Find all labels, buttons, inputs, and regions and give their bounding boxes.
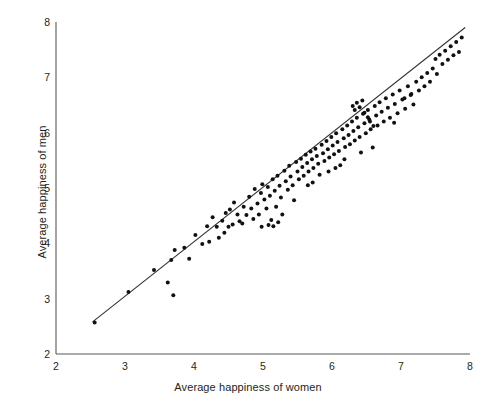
data-point [446,58,450,62]
y-axis-title: Average happiness of men [36,62,48,322]
data-point [193,233,197,237]
data-point [406,84,410,88]
data-point [369,127,373,131]
data-point [171,293,175,297]
data-point [260,182,264,186]
data-point [386,106,390,110]
data-point [282,169,286,173]
data-point [271,177,275,181]
data-point [257,213,261,217]
data-point [438,53,442,57]
x-tick-label: 2 [44,360,68,372]
data-point [443,49,447,53]
data-point [340,127,344,131]
data-point [348,142,352,146]
data-point [173,248,177,252]
data-point [187,257,191,261]
scatter-chart: 8 7 6 5 4 3 2 2 3 4 5 6 7 8 Average happ… [0,0,496,410]
data-point [266,185,270,189]
data-point [259,191,263,195]
data-point [329,135,333,139]
data-point [242,205,246,209]
data-point [269,218,273,222]
data-point [366,108,370,112]
data-point [422,84,426,88]
data-point [271,224,275,228]
data-point [247,195,251,199]
data-point [434,57,438,61]
data-point [231,223,235,227]
data-point [376,123,380,127]
data-point [364,131,368,135]
data-point [306,183,310,187]
data-point [321,151,325,155]
data-point [431,66,435,70]
data-point [378,100,382,104]
x-tick-label: 8 [458,360,482,372]
data-point [260,225,264,229]
data-point [460,35,464,39]
data-point [331,143,335,147]
data-point [291,183,295,187]
data-point [326,147,330,151]
data-point [324,139,328,143]
data-point [264,206,268,210]
data-point [347,133,351,137]
data-point [353,138,357,142]
data-point [255,201,259,205]
data-point [360,99,364,103]
x-tick-label: 5 [251,360,275,372]
data-point [451,53,455,57]
data-point [305,161,309,165]
data-point [296,169,300,173]
y-tick-label: 8 [30,16,50,28]
data-point [275,174,279,178]
data-point [292,198,296,202]
data-point [402,96,406,100]
x-tick-label: 6 [320,360,344,372]
data-point [358,135,362,139]
data-point [420,75,424,79]
data-point [286,188,290,192]
data-point [224,211,228,215]
data-point [351,104,355,108]
data-point [435,72,439,76]
data-point [333,166,337,170]
data-point [304,153,308,157]
data-point [342,157,346,161]
data-point [215,225,219,229]
data-point [273,189,277,193]
data-point [268,194,272,198]
data-point [366,115,370,119]
data-point [278,184,282,188]
data-point [393,102,397,106]
data-point [368,120,372,124]
data-point [166,281,170,285]
data-point [428,80,432,84]
data-point [403,107,407,111]
data-point [311,166,315,170]
data-point [398,89,402,93]
data-point [182,246,186,250]
data-point [345,123,349,127]
data-point [362,121,366,125]
data-point [320,143,324,147]
data-point [302,174,306,178]
data-point [327,169,331,173]
data-point [211,215,215,219]
data-point [343,145,347,149]
data-point [417,89,421,93]
data-point [300,165,304,169]
data-point [310,157,314,161]
data-point [244,213,248,217]
data-point [240,221,244,225]
data-point [222,231,226,235]
data-point [228,208,232,212]
data-point [315,154,319,158]
data-point [358,105,362,109]
data-point [294,160,298,164]
data-point [336,140,340,144]
data-point [309,149,313,153]
x-axis-title: Average happiness of women [0,381,496,393]
data-point [411,102,415,106]
